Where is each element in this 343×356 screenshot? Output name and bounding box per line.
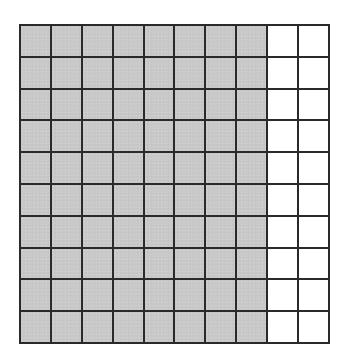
shaded-cell: [21, 185, 52, 217]
shaded-cell: [114, 185, 145, 217]
shaded-cell: [52, 280, 83, 312]
shaded-cell: [237, 121, 268, 153]
shaded-cell: [52, 90, 83, 122]
shaded-cell: [145, 26, 176, 58]
unshaded-cell: [299, 312, 330, 344]
unshaded-cell: [268, 312, 299, 344]
shaded-cell: [52, 217, 83, 249]
unshaded-cell: [268, 217, 299, 249]
shaded-cell: [145, 121, 176, 153]
shaded-cell: [114, 58, 145, 90]
shaded-cell: [206, 121, 237, 153]
shaded-cell: [21, 217, 52, 249]
shaded-cell: [21, 153, 52, 185]
shaded-cell: [114, 153, 145, 185]
shaded-cell: [237, 26, 268, 58]
shaded-cell: [175, 121, 206, 153]
shaded-cell: [206, 185, 237, 217]
shaded-cell: [83, 58, 114, 90]
shaded-cell: [52, 249, 83, 281]
shaded-cell: [145, 153, 176, 185]
shaded-cell: [83, 312, 114, 344]
unshaded-cell: [299, 280, 330, 312]
shaded-cell: [52, 185, 83, 217]
shaded-cell: [206, 280, 237, 312]
shaded-cell: [175, 249, 206, 281]
unshaded-cell: [299, 26, 330, 58]
shaded-cell: [114, 26, 145, 58]
unshaded-cell: [268, 58, 299, 90]
unshaded-cell: [268, 26, 299, 58]
hundred-grid: [19, 24, 330, 344]
shaded-cell: [175, 58, 206, 90]
shaded-cell: [83, 249, 114, 281]
shaded-cell: [145, 58, 176, 90]
unshaded-cell: [299, 121, 330, 153]
shaded-cell: [52, 312, 83, 344]
shaded-cell: [237, 90, 268, 122]
shaded-cell: [83, 153, 114, 185]
shaded-cell: [175, 312, 206, 344]
shaded-cell: [175, 26, 206, 58]
unshaded-cell: [268, 153, 299, 185]
shaded-cell: [206, 153, 237, 185]
unshaded-cell: [299, 58, 330, 90]
unshaded-cell: [268, 280, 299, 312]
shaded-cell: [114, 121, 145, 153]
shaded-cell: [21, 26, 52, 58]
unshaded-cell: [299, 217, 330, 249]
shaded-cell: [206, 217, 237, 249]
shaded-cell: [83, 185, 114, 217]
shaded-cell: [175, 153, 206, 185]
unshaded-cell: [268, 249, 299, 281]
shaded-cell: [175, 280, 206, 312]
shaded-cell: [175, 217, 206, 249]
shaded-cell: [206, 58, 237, 90]
unshaded-cell: [299, 153, 330, 185]
shaded-cell: [145, 217, 176, 249]
unshaded-cell: [268, 121, 299, 153]
unshaded-cell: [299, 249, 330, 281]
unshaded-cell: [299, 90, 330, 122]
shaded-cell: [145, 90, 176, 122]
shaded-cell: [237, 217, 268, 249]
unshaded-cell: [268, 185, 299, 217]
shaded-cell: [52, 26, 83, 58]
shaded-cell: [21, 58, 52, 90]
shaded-cell: [237, 185, 268, 217]
shaded-cell: [206, 249, 237, 281]
shaded-cell: [114, 280, 145, 312]
shaded-cell: [237, 249, 268, 281]
shaded-cell: [206, 312, 237, 344]
shaded-cell: [83, 121, 114, 153]
shaded-cell: [175, 185, 206, 217]
shaded-cell: [206, 90, 237, 122]
shaded-cell: [52, 153, 83, 185]
shaded-cell: [206, 26, 237, 58]
shaded-cell: [237, 312, 268, 344]
unshaded-cell: [268, 90, 299, 122]
shaded-cell: [175, 90, 206, 122]
unshaded-cell: [299, 185, 330, 217]
shaded-cell: [83, 90, 114, 122]
shaded-cell: [52, 121, 83, 153]
shaded-cell: [237, 280, 268, 312]
shaded-cell: [21, 280, 52, 312]
shaded-cell: [83, 26, 114, 58]
shaded-cell: [21, 121, 52, 153]
shaded-cell: [145, 280, 176, 312]
shaded-cell: [21, 90, 52, 122]
shaded-cell: [83, 280, 114, 312]
shaded-cell: [237, 58, 268, 90]
shaded-cell: [145, 312, 176, 344]
shaded-cell: [145, 185, 176, 217]
shaded-cell: [21, 312, 52, 344]
shaded-cell: [114, 312, 145, 344]
shaded-cell: [237, 153, 268, 185]
shaded-cell: [21, 249, 52, 281]
shaded-cell: [114, 217, 145, 249]
shaded-cell: [114, 90, 145, 122]
shaded-cell: [145, 249, 176, 281]
shaded-cell: [83, 217, 114, 249]
shaded-cell: [52, 58, 83, 90]
